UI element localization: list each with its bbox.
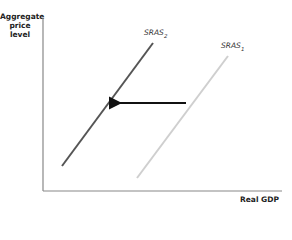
x-axis-label: Real GDP [240, 195, 279, 204]
sras2-curve [62, 43, 153, 166]
sras1-curve [137, 56, 228, 178]
sras2-label: SRAS2 [144, 28, 167, 39]
sras1-label: SRAS1 [221, 41, 244, 52]
